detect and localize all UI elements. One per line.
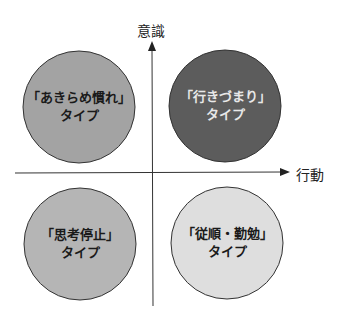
type-name: 「あきらめ慣れ」 [27,89,131,107]
y-axis-arrow-icon [148,41,156,51]
x-axis-arrow-icon [280,168,290,176]
x-axis [15,172,282,173]
type-name: 「行きづまり」 [180,88,271,106]
y-axis [152,50,153,306]
y-axis-label: 意識 [137,20,165,40]
type-suffix: タイプ [41,244,119,262]
type-suffix: タイプ [27,107,131,125]
quadrant-label-bottom-left: 「思考停止」 タイプ [41,226,119,262]
quadrant-label-bottom-right: 「従順・勤勉」 タイプ [182,225,273,261]
quadrant-label-top-left: 「あきらめ慣れ」 タイプ [27,89,131,125]
type-name: 「思考停止」 [41,226,119,244]
quadrant-label-top-right: 「行きづまり」 タイプ [180,88,271,124]
quadrant-diagram [0,0,344,318]
type-suffix: タイプ [180,106,271,124]
type-name: 「従順・勤勉」 [182,225,273,243]
type-suffix: タイプ [182,243,273,261]
x-axis-label: 行動 [296,164,324,184]
